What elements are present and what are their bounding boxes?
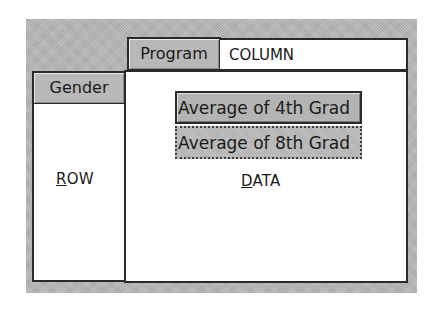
pivot-table-layout-canvas: Program COLUMN Average of 4th Grad Avera… [0,0,439,313]
row-label-rest: OW [67,170,94,188]
data-field-label: Average of 8th Grad [178,133,350,153]
program-field-label: Program [140,46,208,62]
data-drop-label: DATA [241,172,280,190]
row-drop-label: ROW [56,170,94,188]
gender-field-label: Gender [50,80,109,96]
data-label-rest: ATA [253,172,281,190]
data-field-label: Average of 4th Grad [178,98,350,118]
data-accel-key: D [241,172,253,190]
column-label-rest: OLUMN [239,46,294,64]
column-accel-key: C [229,46,239,64]
data-field-button-4th-grade[interactable]: Average of 4th Grad [175,91,362,124]
data-drop-area[interactable]: Average of 4th Grad Average of 8th Grad … [124,70,408,283]
row-accel-key: R [56,170,67,188]
column-drop-label: COLUMN [229,46,294,64]
data-field-button-8th-grade[interactable]: Average of 8th Grad [175,126,362,159]
column-drop-area[interactable]: COLUMN [219,38,408,71]
row-drop-area[interactable]: ROW [32,104,126,282]
program-field-button[interactable]: Program [127,37,221,71]
gender-field-button[interactable]: Gender [32,71,126,105]
